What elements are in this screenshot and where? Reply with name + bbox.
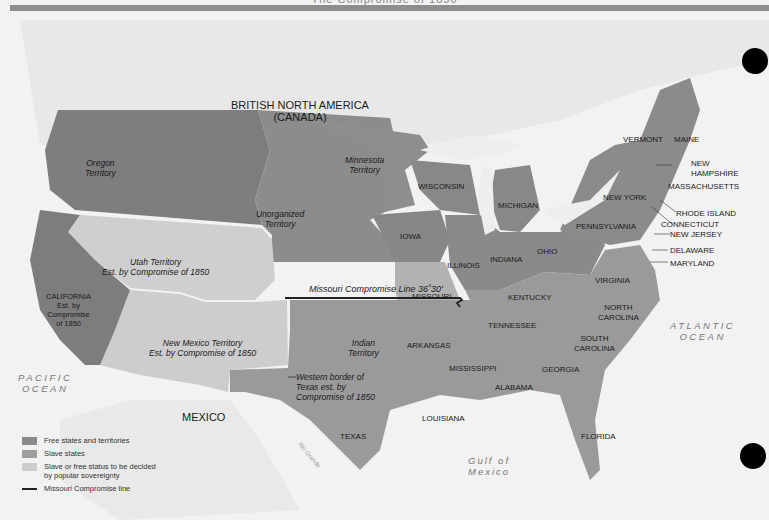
label-mexico: MEXICO: [182, 411, 225, 423]
map: The Compromise of 1850: [0, 0, 769, 520]
label-unorganized-territory: UnorganizedTerritory: [256, 209, 304, 229]
label-atlantic-ocean: ATLANTICOCEAN: [670, 320, 735, 342]
line-swatch: [22, 488, 37, 490]
label-new-mexico-territory: New Mexico TerritoryEst. by Compromise o…: [149, 338, 256, 358]
label-rhode-island: RHODE ISLAND: [676, 209, 736, 219]
label-new-jersey: NEW JERSEY: [670, 230, 722, 240]
label-michigan: MICHIGAN: [498, 201, 538, 211]
label-oregon-territory: OregonTerritory: [85, 158, 116, 178]
slave-swatch: [22, 450, 37, 458]
label-indiana: INDIANA: [490, 255, 522, 265]
label-indian-territory: IndianTerritory: [348, 338, 379, 358]
free-swatch: [22, 437, 37, 445]
legend-item-free: Free states and territories: [22, 436, 156, 445]
label-minnesota-territory: MinnesotaTerritory: [345, 155, 384, 175]
label-tennessee: TENNESSEE: [488, 321, 536, 331]
label-new-hampshire: NEWHAMPSHIRE: [691, 159, 739, 179]
label-georgia: GEORGIA: [542, 365, 579, 375]
legend-item-line: Missouri Compromise line: [22, 484, 156, 493]
label-vermont: VERMONT: [623, 135, 663, 145]
label-california: CALIFORNIAEst. byCompromiseof 1850: [46, 292, 91, 328]
marker-dot-bottom: [740, 443, 766, 469]
label-british-north-america: BRITISH NORTH AMERICA (CANADA): [225, 99, 375, 123]
popular-swatch: [22, 463, 37, 471]
label-texas-border: Western border ofTexas est. byCompromise…: [296, 372, 375, 402]
label-texas: TEXAS: [340, 432, 366, 442]
legend-item-slave: Slave states: [22, 449, 156, 458]
label-iowa: IOWA: [400, 232, 421, 242]
label-louisiana: LOUISIANA: [422, 414, 465, 424]
label-mississippi: MISSISSIPPI: [449, 364, 497, 374]
marker-dot-top: [742, 48, 768, 74]
oregon-territory: [45, 110, 270, 225]
label-massachusetts: MASSACHUSETTS: [668, 182, 739, 192]
label-north-carolina: NORTHCAROLINA: [598, 303, 639, 323]
label-alabama: ALABAMA: [495, 383, 533, 393]
label-illinois: ILLINOIS: [447, 261, 480, 271]
label-delaware: DELAWARE: [670, 246, 714, 256]
label-new-york: NEW YORK: [603, 193, 646, 203]
label-missouri: MISSOURI: [412, 292, 452, 302]
label-south-carolina: SOUTHCAROLINA: [574, 334, 615, 354]
legend-item-popular: Slave or free status to be decided by po…: [22, 462, 156, 480]
michigan: [490, 165, 540, 232]
label-kentucky: KENTUCKY: [508, 293, 552, 303]
label-florida: FLORIDA: [581, 432, 616, 442]
label-maryland: MARYLAND: [670, 259, 714, 269]
label-virginia: VIRGINIA: [595, 276, 630, 286]
label-pennsylvania: PENNSYLVANIA: [576, 222, 636, 232]
label-connecticut: CONNECTICUT: [661, 220, 719, 230]
label-wisconsin: WISCONSIN: [418, 182, 464, 192]
label-arkansas: ARKANSAS: [407, 341, 451, 351]
label-maine: MAINE: [674, 135, 699, 145]
label-pacific-ocean: PACIFICOCEAN: [18, 372, 72, 394]
label-utah-territory: Utah TerritoryEst. by Compromise of 1850: [102, 257, 209, 277]
label-gulf-of-mexico: Gulf ofMexico: [468, 455, 510, 477]
legend: Free states and territories Slave states…: [22, 436, 156, 497]
label-ohio: OHIO: [537, 247, 557, 257]
